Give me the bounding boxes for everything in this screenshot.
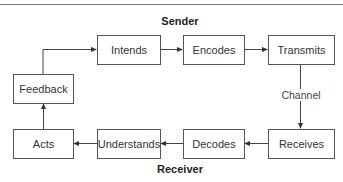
node-intends: Intends [97,35,161,65]
edge-feedback-intends [43,50,96,75]
sender-heading: Sender [150,15,210,27]
node-understands: Understands [97,129,161,159]
node-encodes: Encodes [183,35,245,65]
node-feedback: Feedback [13,74,74,104]
receiver-heading: Receiver [140,163,220,175]
node-decodes: Decodes [183,129,245,159]
node-transmits: Transmits [268,35,335,65]
node-receives: Receives [268,129,335,159]
node-acts: Acts [13,129,74,159]
channel-label: Channel [276,89,326,101]
